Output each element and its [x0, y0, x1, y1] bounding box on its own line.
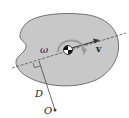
point-o-dot [54, 109, 57, 112]
omega-label: ω [40, 44, 48, 55]
center-of-mass-icon [64, 46, 73, 55]
distance-label: D [34, 88, 43, 99]
velocity-label: v [95, 44, 102, 54]
rigid-body-diagram: ω v D O [0, 0, 129, 118]
point-o-label: O [44, 105, 52, 116]
